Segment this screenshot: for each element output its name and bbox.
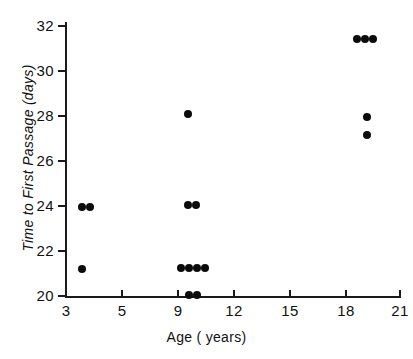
x-tick-label: 9 <box>165 303 191 318</box>
y-tick-mark <box>58 160 65 162</box>
y-tick-mark <box>58 70 65 72</box>
x-tick-mark <box>177 290 179 297</box>
y-tick-mark <box>58 115 65 117</box>
scatter-plot-figure: 32302826242220 35912151821 Age ( years) … <box>0 0 413 359</box>
y-axis-line <box>65 22 67 298</box>
data-point <box>363 131 371 139</box>
y-tick-mark <box>58 250 65 252</box>
data-point <box>363 113 371 121</box>
data-point <box>185 291 193 299</box>
x-tick-label: 3 <box>53 303 79 318</box>
data-point <box>86 203 94 211</box>
data-point <box>193 291 201 299</box>
x-tick-label: 18 <box>333 303 359 318</box>
x-tick-mark <box>121 290 123 297</box>
data-point <box>184 110 192 118</box>
data-point <box>193 264 201 272</box>
data-point <box>184 201 192 209</box>
data-point <box>353 35 361 43</box>
x-tick-mark <box>345 290 347 297</box>
x-tick-mark <box>65 290 67 297</box>
x-tick-mark <box>233 290 235 297</box>
data-point <box>78 203 86 211</box>
x-axis-title: Age ( years) <box>0 329 413 345</box>
data-point <box>78 265 86 273</box>
y-tick-mark <box>58 25 65 27</box>
data-point <box>369 35 377 43</box>
y-tick-mark <box>58 295 65 297</box>
x-tick-mark <box>399 290 401 297</box>
x-tick-label: 15 <box>277 303 303 318</box>
y-tick-mark <box>58 205 65 207</box>
x-tick-label: 21 <box>387 303 413 318</box>
x-tick-label: 12 <box>221 303 247 318</box>
data-point <box>361 35 369 43</box>
data-point <box>192 201 200 209</box>
data-point <box>177 264 185 272</box>
x-tick-label: 5 <box>109 303 135 318</box>
data-point <box>201 264 209 272</box>
y-axis-title: Time to First Passage (days) <box>20 18 36 298</box>
x-tick-mark <box>289 290 291 297</box>
data-point <box>185 264 193 272</box>
